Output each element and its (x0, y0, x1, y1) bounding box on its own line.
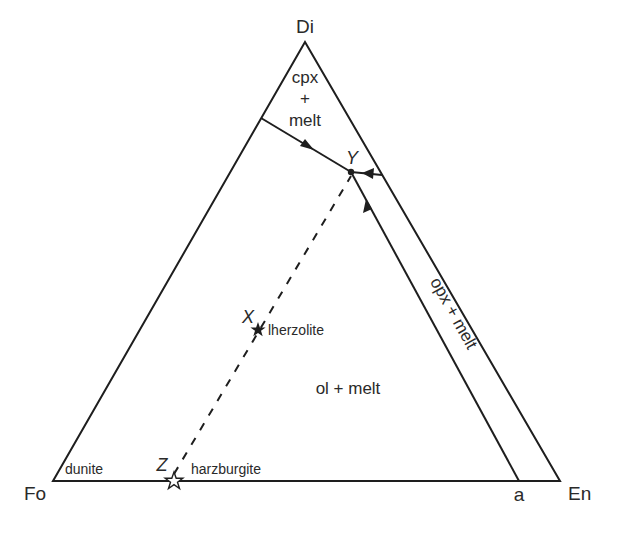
ternary-phase-diagram: Di Fo En cpx + melt ol + melt opx + melt… (0, 0, 623, 533)
vertex-label-fo: Fo (24, 483, 46, 504)
rock-label-dunite: dunite (65, 461, 103, 477)
rock-label-lherzolite: lherzolite (268, 322, 324, 338)
field-label-ol-melt: ol + melt (316, 379, 381, 398)
harzburgite-open-star-icon (165, 472, 183, 489)
point-y-marker (348, 169, 354, 175)
field-label-cpx: cpx (292, 68, 319, 87)
vertex-label-di: Di (296, 16, 314, 37)
boundary-arrow-icon (362, 168, 374, 179)
field-label-opx-melt: opx + melt (426, 274, 481, 352)
vertex-label-en: En (568, 483, 591, 504)
point-label-a: a (514, 484, 525, 505)
field-label-plus: + (300, 89, 310, 108)
rock-label-harzburgite: harzburgite (191, 461, 261, 477)
melting-trajectory-dashed-line (174, 176, 351, 474)
point-label-y: Y (346, 148, 360, 168)
point-label-x: X (241, 307, 255, 327)
ol-opx-boundary-line (351, 172, 519, 481)
boundary-arrow-icon (300, 139, 314, 150)
point-label-z: Z (156, 455, 169, 475)
field-label-melt: melt (289, 111, 321, 130)
